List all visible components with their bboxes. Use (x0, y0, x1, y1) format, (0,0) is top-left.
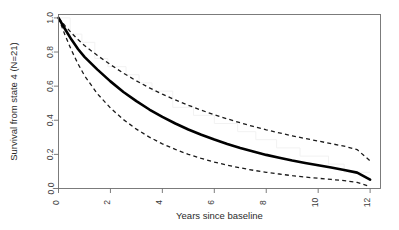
y-tick-label: 0.0 (46, 182, 56, 194)
y-tick-label: 0.4 (46, 114, 56, 126)
x-axis-title: Years since baseline (176, 210, 263, 221)
x-tick-label: 0 (51, 200, 61, 205)
survival-plot-figure: 024681012 0.00.20.40.60.81.0 Years since… (0, 0, 399, 230)
x-tick-label: 10 (310, 198, 320, 208)
plot-canvas: 024681012 0.00.20.40.60.81.0 Years since… (0, 0, 399, 230)
x-tick-label: 8 (258, 200, 268, 205)
x-tick-label: 2 (102, 200, 112, 205)
y-tick-label: 0.8 (46, 46, 56, 58)
y-axis-title: Survival from state 4 (N=21) (8, 42, 19, 161)
y-tick-label: 1.0 (46, 12, 56, 24)
y-tick-label: 0.6 (46, 80, 56, 92)
x-tick-label: 4 (154, 200, 164, 205)
y-tick-label: 0.2 (46, 148, 56, 160)
x-tick-label: 12 (362, 198, 372, 208)
x-tick-label: 6 (206, 200, 216, 205)
